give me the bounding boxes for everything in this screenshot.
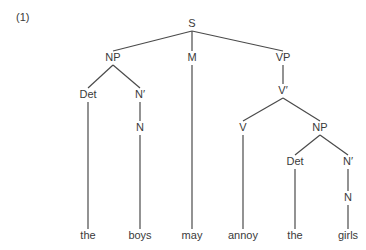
branch-NP1-Nb1 xyxy=(113,65,140,88)
node-n1: N xyxy=(136,121,144,133)
node-np2: NP xyxy=(312,121,327,133)
node-nb2: N′ xyxy=(343,155,353,167)
tree-edges xyxy=(88,31,348,229)
node-nb1: N′ xyxy=(135,88,145,100)
example-number: (1) xyxy=(16,11,29,23)
node-np1: NP xyxy=(105,51,120,63)
node-v: V xyxy=(239,121,247,133)
leaf-word: boys xyxy=(128,229,152,241)
leaf-word: may xyxy=(182,229,203,241)
branch-NP2-Nb2 xyxy=(320,135,348,155)
node-det1: Det xyxy=(79,88,96,100)
leaf-word: the xyxy=(287,229,302,241)
branch-Vb-NP2 xyxy=(283,98,320,121)
leaf-word: annoy xyxy=(228,229,258,241)
branch-S-NP1 xyxy=(113,31,192,51)
node-vp: VP xyxy=(276,51,291,63)
node-vb: V′ xyxy=(278,84,287,96)
tree-labels: (1) SNPMVPDetN′NV′VNPDetN′Ntheboysmayann… xyxy=(16,11,359,241)
syntax-tree: (1) SNPMVPDetN′NV′VNPDetN′Ntheboysmayann… xyxy=(0,0,366,250)
node-m: M xyxy=(187,51,196,63)
branch-NP1-Det1 xyxy=(88,65,113,88)
branch-S-VP xyxy=(192,31,283,51)
leaf-word: girls xyxy=(338,229,359,241)
node-s: S xyxy=(188,17,195,29)
node-n2: N xyxy=(344,191,352,203)
branch-Vb-V xyxy=(243,98,283,121)
leaf-word: the xyxy=(80,229,95,241)
node-det2: Det xyxy=(286,155,303,167)
branch-NP2-Det2 xyxy=(295,135,320,155)
